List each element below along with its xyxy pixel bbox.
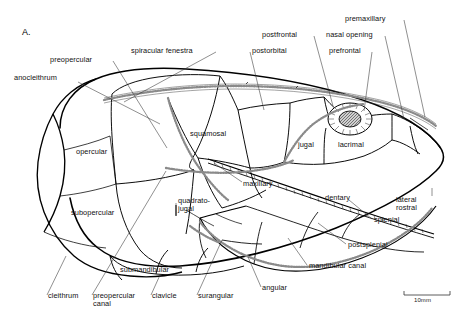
figure-canvas: A. anocleithrumpreopercularspiracular fe… xyxy=(0,0,456,325)
label-preopercular: preopercular xyxy=(50,56,92,64)
label-postorbital: postorbital xyxy=(252,47,287,55)
label-mandibular-canal: mandibular canal xyxy=(309,262,366,270)
label-anocleithrum: anocleithrum xyxy=(14,74,57,82)
label-submandibular: submandibular xyxy=(120,266,169,274)
label-postfrontal: postfrontal xyxy=(262,31,297,39)
label-angular: angular xyxy=(262,284,287,292)
skull-illustration xyxy=(0,0,456,325)
label-splenial: splenial xyxy=(374,216,399,224)
label-subopercular: subopercular xyxy=(71,209,114,217)
panel-label: A. xyxy=(22,27,31,37)
orbit xyxy=(328,103,372,135)
label-squamosal: squamosal xyxy=(190,130,226,138)
label-quadratojugal: quadrato- jugal xyxy=(178,197,210,213)
label-dentary: dentary xyxy=(325,194,350,202)
leader-cleithrum xyxy=(47,256,66,295)
label-cleithrum: cleithrum xyxy=(48,292,78,300)
label-maxillary: maxillary xyxy=(243,180,273,188)
scale-bar xyxy=(404,291,450,295)
label-clavicle: clavicle xyxy=(152,292,177,300)
label-prefrontal: prefrontal xyxy=(329,47,361,55)
label-surangular: surangular xyxy=(198,292,233,300)
scale-bar-caption: 10mm xyxy=(414,297,431,303)
label-spiracular-fenestra: spiracular fenestra xyxy=(131,47,193,55)
label-lateral-rostral: lateral rostral xyxy=(396,196,417,212)
label-premaxillary: premaxillary xyxy=(345,15,385,23)
label-opercular: opercular xyxy=(76,148,107,156)
label-lacrimal: lacrimal xyxy=(338,141,364,149)
label-preopercular-canal: preopercular canal xyxy=(93,292,135,308)
label-jugal: jugal xyxy=(298,141,314,149)
label-nasal-opening: nasal opening xyxy=(326,31,373,39)
leader-premaxillary xyxy=(404,20,425,117)
label-postsplenial: postsplenial xyxy=(348,241,388,249)
